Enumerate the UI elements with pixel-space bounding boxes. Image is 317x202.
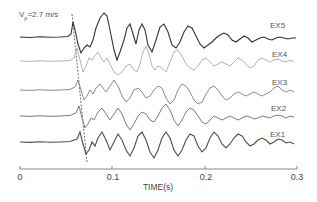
trace-ex5	[20, 13, 296, 60]
trace-ex3	[20, 80, 294, 104]
x-tick-label-0.3: 0.3	[291, 172, 304, 182]
trace-ex2	[20, 104, 294, 130]
legend-ex2: EX2	[271, 104, 286, 113]
x-tick-label-0.2: 0.2	[200, 172, 213, 182]
velocity-annotation: Vp=2.7 m/s	[19, 10, 58, 21]
legend-ex4: EX4	[272, 50, 287, 59]
x-tick-label-0: 0	[17, 172, 22, 182]
trace-ex4	[20, 46, 294, 75]
legend-ex5: EX5	[270, 21, 285, 30]
legend-ex1: EX1	[270, 130, 285, 139]
legend-ex3: EX3	[272, 78, 287, 87]
x-tick-label-0.1: 0.1	[107, 172, 120, 182]
seismic-trace-chart	[0, 0, 317, 202]
x-axis-label: TIME(s)	[143, 182, 173, 192]
trace-ex1	[20, 132, 294, 158]
